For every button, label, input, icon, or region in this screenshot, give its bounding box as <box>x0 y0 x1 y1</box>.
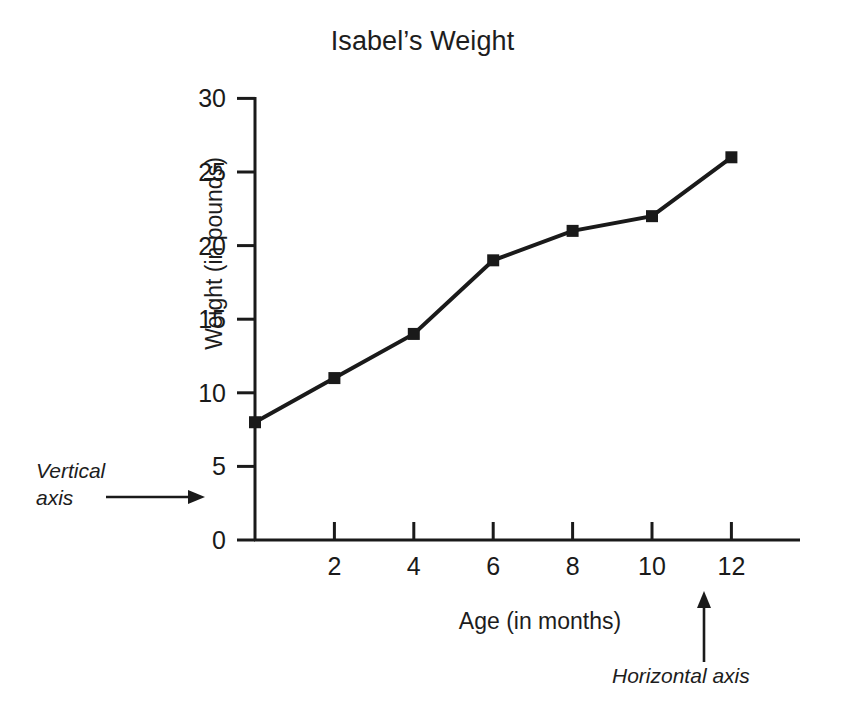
data-point-marker <box>328 372 340 384</box>
data-point-marker <box>249 416 261 428</box>
chart-plot-area: 051015202530 24681012 <box>0 0 845 723</box>
x-tick-label: 10 <box>638 552 666 580</box>
x-tick-label: 4 <box>407 552 421 580</box>
data-point-marker <box>567 225 579 237</box>
x-tick-label: 8 <box>566 552 580 580</box>
y-tick-label: 0 <box>212 526 226 554</box>
data-line <box>255 157 731 422</box>
y-tick-label: 30 <box>198 84 226 112</box>
x-tick-label: 6 <box>486 552 500 580</box>
y-tick-label: 10 <box>198 379 226 407</box>
y-tick-label: 20 <box>198 232 226 260</box>
x-axis-tick-labels: 24681012 <box>327 552 745 580</box>
chart-figure: Isabel’s Weight Weight (in pounds) Age (… <box>0 0 845 723</box>
y-tick-label: 15 <box>198 305 226 333</box>
y-axis-tick-labels: 051015202530 <box>198 84 226 554</box>
x-axis-ticks <box>334 522 731 540</box>
y-axis-ticks <box>237 98 255 540</box>
data-point-marker <box>646 210 658 222</box>
y-tick-label: 5 <box>212 452 226 480</box>
x-tick-label: 2 <box>327 552 341 580</box>
vertical-axis-annotation-arrow <box>106 490 205 504</box>
data-point-marker <box>725 151 737 163</box>
x-tick-label: 12 <box>717 552 745 580</box>
horizontal-axis-annotation-arrow <box>697 591 711 662</box>
y-tick-label: 25 <box>198 158 226 186</box>
data-point-marker <box>408 328 420 340</box>
data-point-marker <box>487 254 499 266</box>
